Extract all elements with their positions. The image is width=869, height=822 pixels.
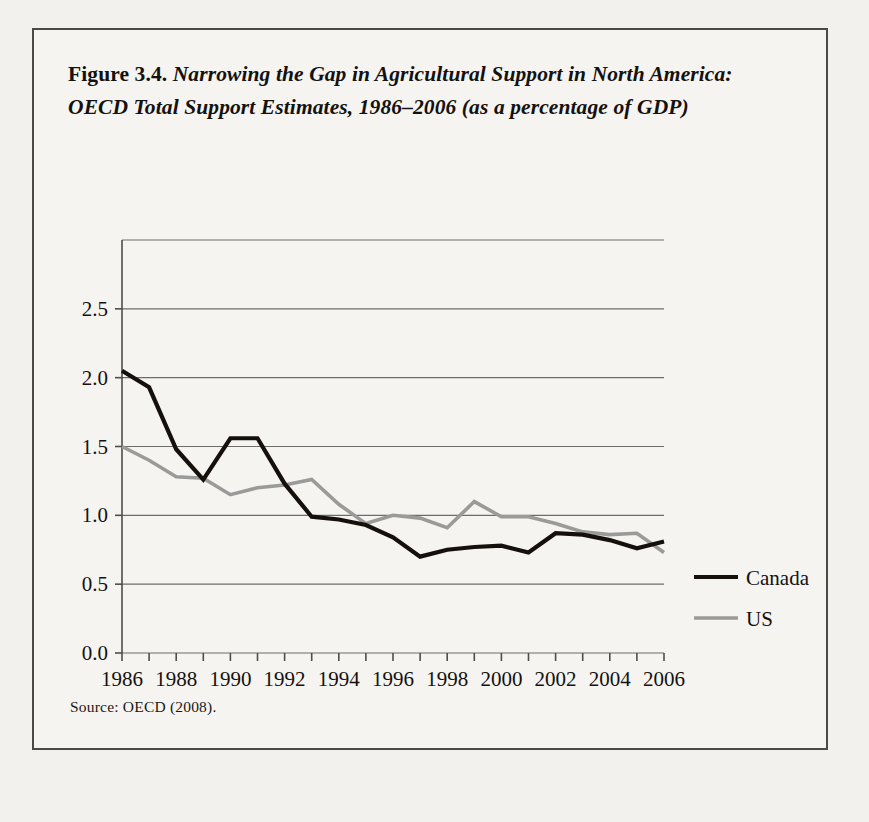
x-axis-tick-label: 1988 — [155, 667, 197, 691]
y-axis-tick-label: 2.0 — [82, 366, 108, 390]
x-axis-tick-label: 1994 — [318, 667, 361, 691]
x-axis-tick-label: 1990 — [209, 667, 251, 691]
legend-label-canada: Canada — [746, 566, 810, 590]
y-axis-tick-label: 0.0 — [82, 641, 108, 665]
x-axis-tick-label: 1992 — [264, 667, 306, 691]
x-axis-tick-label: 2002 — [535, 667, 577, 691]
y-axis-tick-label: 0.5 — [82, 572, 108, 596]
y-axis-tick-label: 1.5 — [82, 435, 108, 459]
line-chart: 0.00.51.01.52.02.51986198819901992199419… — [34, 180, 826, 710]
x-axis-tick-label: 1998 — [426, 667, 468, 691]
figure-container: Figure 3.4. Narrowing the Gap in Agricul… — [32, 28, 828, 750]
figure-title-text: Narrowing the Gap in Agricultural Suppor… — [68, 62, 733, 119]
y-axis-tick-label: 1.0 — [82, 503, 108, 527]
x-axis-tick-label: 2006 — [643, 667, 685, 691]
y-axis-tick-label: 2.5 — [82, 297, 108, 321]
figure-number: Figure 3.4. — [68, 62, 167, 86]
x-axis-tick-label: 1986 — [101, 667, 143, 691]
series-line-canada — [122, 371, 664, 557]
x-axis-tick-label: 2004 — [589, 667, 632, 691]
legend-label-us: US — [746, 607, 773, 631]
figure-title: Figure 3.4. Narrowing the Gap in Agricul… — [68, 58, 758, 124]
source-note: Source: OECD (2008). — [70, 698, 217, 716]
x-axis-tick-label: 1996 — [372, 667, 414, 691]
chart-plot-area: 0.00.51.01.52.02.51986198819901992199419… — [34, 180, 826, 710]
x-axis-tick-label: 2000 — [480, 667, 522, 691]
